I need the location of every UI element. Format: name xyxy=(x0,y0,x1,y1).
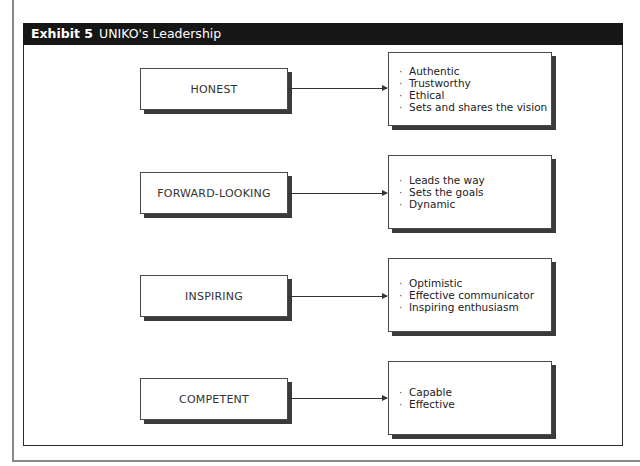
bullet-icon: · xyxy=(399,277,409,289)
bullet-icon: · xyxy=(399,301,409,313)
bullet-icon: · xyxy=(399,101,409,113)
bullet-icon: · xyxy=(399,89,409,101)
traits-box-forward-looking: ·Leads the way ·Sets the goals ·Dynamic xyxy=(388,155,552,229)
trait-item: ·Capable xyxy=(399,386,551,398)
bullet-icon: · xyxy=(399,174,409,186)
quality-box-inspiring: INSPIRING xyxy=(140,275,288,317)
trait-item: ·Ethical xyxy=(399,89,551,101)
trait-item: ·Authentic xyxy=(399,65,551,77)
traits-box-honest: ·Authentic ·Trustworthy ·Ethical ·Sets a… xyxy=(388,52,552,126)
exhibit-number: Exhibit 5 xyxy=(31,26,93,41)
bullet-icon: · xyxy=(399,77,409,89)
arrow-icon xyxy=(287,88,387,89)
quality-label: HONEST xyxy=(190,83,237,96)
trait-item: ·Sets and shares the vision xyxy=(399,101,551,113)
arrow-icon xyxy=(287,296,387,297)
trait-item: ·Dynamic xyxy=(399,198,551,210)
trait-item: ·Sets the goals xyxy=(399,186,551,198)
page-border-left xyxy=(12,0,14,462)
trait-item: ·Optimistic xyxy=(399,277,551,289)
trait-item: ·Inspiring enthusiasm xyxy=(399,301,551,313)
traits-box-competent: ·Capable ·Effective xyxy=(388,361,552,435)
traits-box-inspiring: ·Optimistic ·Effective communicator ·Ins… xyxy=(388,258,552,332)
trait-item: ·Effective communicator xyxy=(399,289,551,301)
quality-box-competent: COMPETENT xyxy=(140,378,288,420)
bullet-icon: · xyxy=(399,198,409,210)
bullet-icon: · xyxy=(399,386,409,398)
quality-label: COMPETENT xyxy=(179,393,249,406)
quality-label: FORWARD-LOOKING xyxy=(157,187,270,200)
page-border-bottom xyxy=(12,460,640,462)
arrow-icon xyxy=(287,398,387,399)
exhibit-title-bar: Exhibit 5UNIKO's Leadership xyxy=(23,23,623,45)
bullet-icon: · xyxy=(399,289,409,301)
bullet-icon: · xyxy=(399,398,409,410)
trait-item: ·Effective xyxy=(399,398,551,410)
trait-item: ·Trustworthy xyxy=(399,77,551,89)
quality-box-honest: HONEST xyxy=(140,68,288,110)
trait-item: ·Leads the way xyxy=(399,174,551,186)
exhibit-title: UNIKO's Leadership xyxy=(99,26,221,41)
quality-label: INSPIRING xyxy=(185,290,243,303)
bullet-icon: · xyxy=(399,65,409,77)
quality-box-forward-looking: FORWARD-LOOKING xyxy=(140,172,288,214)
arrow-icon xyxy=(287,193,387,194)
exhibit-heading: Exhibit 5UNIKO's Leadership xyxy=(31,26,221,41)
bullet-icon: · xyxy=(399,186,409,198)
